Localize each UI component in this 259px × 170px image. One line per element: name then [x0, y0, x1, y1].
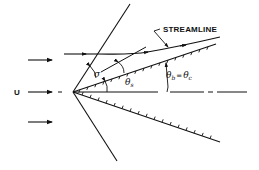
streamline	[64, 37, 220, 54]
body-angle-arc	[105, 81, 107, 92]
body-angle-label: θb=θc	[166, 70, 193, 81]
cone-flow-diagram: U STREAMLINE σ θs	[0, 0, 259, 170]
freestream-arrows	[28, 60, 52, 122]
shock-wave-lower	[73, 92, 117, 161]
freestream-label: U	[14, 88, 20, 97]
streamline-label: STREAMLINE	[163, 25, 217, 34]
flow-angle-arc	[118, 62, 124, 73]
flow-angle-label: θs	[125, 77, 134, 88]
shock-wave	[73, 4, 130, 92]
shock-angle-label: σ	[94, 69, 101, 79]
lower-body-surface	[73, 92, 220, 142]
